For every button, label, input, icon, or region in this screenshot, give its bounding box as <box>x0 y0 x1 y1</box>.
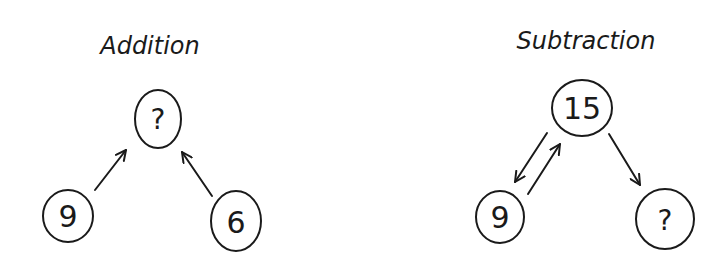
addition-node-right: 6 <box>211 191 261 251</box>
subtraction-title: Subtraction <box>517 27 656 55</box>
arrow-right-to-top <box>182 152 212 196</box>
node-label: ? <box>658 204 673 237</box>
node-label: ? <box>151 103 166 136</box>
subtraction-node-top: 15 <box>552 80 612 136</box>
node-label: 15 <box>563 91 601 126</box>
addition-node-top: ? <box>135 90 181 148</box>
subtraction-diagram: Subtraction 15 9 ? <box>476 27 694 249</box>
node-label: 6 <box>226 205 245 240</box>
arrow-top-to-left <box>515 133 547 182</box>
node-label: 9 <box>58 199 77 234</box>
node-label: 9 <box>490 200 509 235</box>
addition-node-left: 9 <box>43 190 93 242</box>
addition-diagram: Addition ? 9 6 <box>43 32 261 251</box>
subtraction-node-left: 9 <box>476 191 524 243</box>
subtraction-node-right: ? <box>636 189 694 249</box>
arrow-left-to-top <box>95 150 126 190</box>
arrow-left-to-top <box>528 144 560 194</box>
addition-title: Addition <box>98 32 200 60</box>
arrow-top-to-right <box>609 134 640 185</box>
number-bond-diagrams: Addition ? 9 6 Subtraction 15 9 ? <box>0 0 720 273</box>
